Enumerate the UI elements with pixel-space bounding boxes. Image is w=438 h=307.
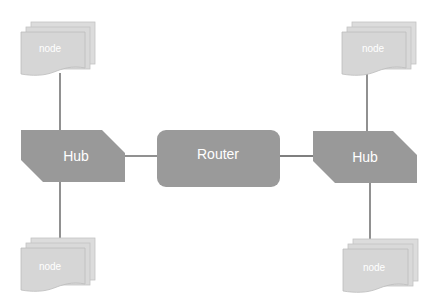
hub-left[interactable]: Hub — [21, 130, 125, 182]
node-label: node — [362, 43, 385, 54]
network-diagram: node node node node Hub — [0, 0, 438, 307]
node-bottom-left[interactable]: node — [21, 238, 95, 291]
node-label: node — [39, 43, 62, 54]
node-top-left[interactable]: node — [21, 22, 95, 75]
hub-label: Hub — [352, 149, 378, 165]
node-label: node — [39, 261, 62, 272]
hub-label: Hub — [63, 148, 89, 164]
node-label: node — [363, 262, 386, 273]
router-label: Router — [197, 146, 239, 162]
node-bottom-right[interactable]: node — [343, 239, 418, 292]
hub-right[interactable]: Hub — [313, 131, 417, 183]
router[interactable]: Router — [157, 130, 280, 187]
node-top-right[interactable]: node — [342, 22, 416, 75]
